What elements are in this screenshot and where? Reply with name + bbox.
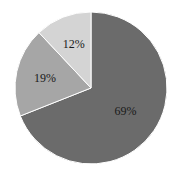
slice-label: 19% bbox=[34, 71, 56, 85]
pie-slices bbox=[15, 12, 167, 164]
pie-chart: 69%19%12% bbox=[0, 0, 180, 173]
slice-label: 12% bbox=[63, 37, 85, 51]
slice-label: 69% bbox=[115, 104, 137, 118]
